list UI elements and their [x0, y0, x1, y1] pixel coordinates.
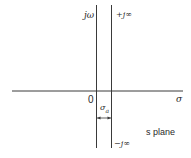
minus-j-infinity-label: −j∞ — [114, 140, 130, 148]
j-omega-label: jω — [84, 11, 94, 20]
sigma-a-subscript: a — [105, 107, 109, 114]
sigma-a-double-arrow — [97, 117, 111, 120]
sigma-a-label: σa — [100, 104, 109, 114]
plus-j-infinity-label: +j∞ — [116, 11, 132, 19]
sigma-axis-label: σ — [176, 95, 182, 104]
s-plane-label: s plane — [146, 128, 175, 137]
origin-label: 0 — [88, 95, 94, 105]
